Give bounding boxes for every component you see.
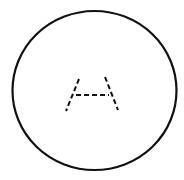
diagram-figure: [0, 0, 184, 180]
dashed-a-shape: [66, 77, 118, 111]
outer-circle: [13, 11, 177, 170]
diagram-canvas: [0, 0, 184, 180]
right-leg-dashed-line: [105, 77, 118, 110]
